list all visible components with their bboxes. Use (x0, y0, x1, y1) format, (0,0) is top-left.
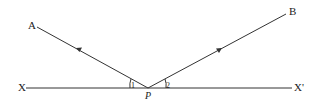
label-a: A (28, 19, 36, 31)
label-angle-1: 1 (131, 81, 135, 90)
label-angle-2: 2 (166, 81, 170, 90)
label-b: B (289, 5, 296, 17)
label-x-prime: X' (294, 81, 304, 93)
label-x: X (18, 81, 26, 93)
label-p: P (144, 90, 151, 101)
reflection-diagram: A B X X' P 1 2 (0, 0, 316, 105)
ray-pa (37, 27, 148, 88)
ray-pb (148, 14, 286, 88)
